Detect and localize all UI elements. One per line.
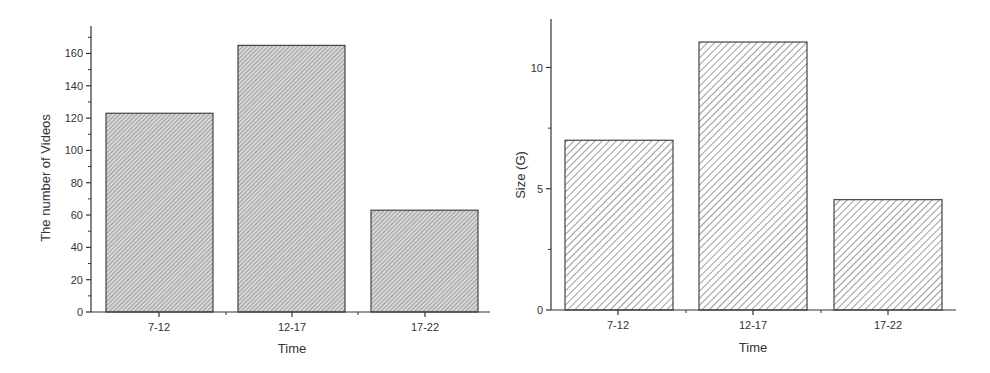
y-tick-label: 160	[65, 47, 83, 59]
y-tick-label: 140	[65, 80, 83, 92]
bar-12-17	[238, 45, 345, 312]
right-chart: 0510 7-1212-1717-22 Time Size (G)	[513, 19, 956, 355]
bar-7-12	[106, 113, 213, 312]
x-tick-label: 17-22	[411, 321, 439, 333]
left-y-ticks: 020406080100120140160	[65, 37, 91, 318]
right-x-ticks: 7-1212-1717-22	[607, 310, 902, 331]
y-tick-label: 10	[531, 62, 543, 74]
y-tick-label: 80	[71, 177, 83, 189]
x-tick-label: 12-17	[278, 321, 306, 333]
y-tick-label: 120	[65, 112, 83, 124]
y-tick-label: 60	[71, 209, 83, 221]
left-chart: 020406080100120140160 7-1212-1717-22 Tim…	[38, 26, 490, 356]
right-y-axis-title: Size (G)	[513, 151, 528, 199]
x-tick-label: 12-17	[739, 319, 767, 331]
y-tick-label: 100	[65, 144, 83, 156]
left-bars	[106, 45, 478, 312]
figure: 020406080100120140160 7-1212-1717-22 Tim…	[0, 0, 990, 373]
left-x-ticks: 7-1212-1717-22	[148, 312, 439, 333]
right-x-axis-title: Time	[739, 340, 767, 355]
left-x-axis-title: Time	[278, 341, 306, 356]
right-y-ticks: 0510	[531, 62, 551, 317]
bar-17-22	[834, 200, 942, 310]
x-tick-label: 7-12	[148, 321, 170, 333]
bar-12-17	[699, 42, 807, 310]
x-tick-label: 7-12	[607, 319, 629, 331]
y-tick-label: 5	[537, 183, 543, 195]
y-tick-label: 0	[537, 304, 543, 316]
bar-17-22	[371, 210, 478, 312]
y-tick-label: 0	[77, 306, 83, 318]
bar-7-12	[565, 140, 673, 310]
y-tick-label: 20	[71, 274, 83, 286]
y-tick-label: 40	[71, 241, 83, 253]
left-y-axis-title: The number of Videos	[38, 114, 53, 242]
right-bars	[565, 42, 942, 310]
x-tick-label: 17-22	[874, 319, 902, 331]
